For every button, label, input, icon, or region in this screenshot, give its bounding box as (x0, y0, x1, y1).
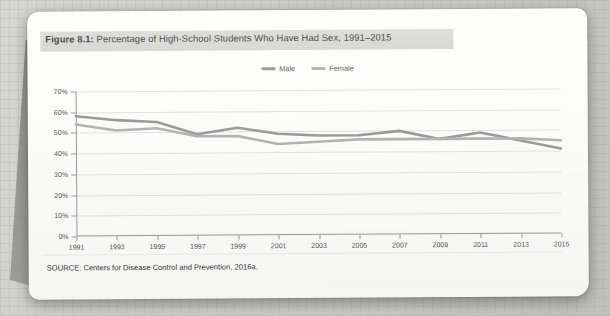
x-axis-tick (359, 235, 360, 239)
line-chart-plot-area: 0%10%20%30%40%50%60%70%19911993199519971… (76, 88, 562, 236)
x-axis-tick (400, 234, 401, 238)
legend-label-female: Female (329, 64, 354, 73)
x-axis-tick (481, 234, 482, 238)
x-axis-tick (238, 235, 239, 239)
x-axis-label: 1997 (190, 243, 206, 250)
chart-legend: Male Female (27, 62, 587, 74)
x-axis-tick (561, 233, 562, 237)
legend-label-male: Male (279, 64, 295, 73)
x-axis-tick (279, 235, 280, 239)
series-lines (76, 88, 562, 236)
y-axis-tick (71, 133, 76, 134)
y-axis-tick (71, 195, 76, 196)
x-axis-label: 2009 (432, 241, 448, 248)
x-axis-label: 1999 (230, 242, 246, 249)
x-axis-label: 2011 (473, 241, 488, 248)
x-axis-tick (117, 236, 118, 240)
x-axis-tick (76, 236, 77, 240)
x-axis-label: 2007 (392, 241, 408, 248)
y-axis-label: 70% (54, 88, 68, 95)
y-axis-label: 50% (54, 129, 68, 136)
legend-item-female: Female (311, 64, 354, 73)
legend-swatch-female (311, 67, 325, 70)
y-axis-tick (71, 216, 76, 217)
y-axis-tick (71, 154, 76, 155)
y-axis-label: 10% (54, 212, 68, 219)
figure-number: Figure 8.1: (45, 33, 94, 44)
y-axis-label: 0% (58, 233, 68, 240)
x-axis-tick (198, 236, 199, 240)
x-axis-label: 1993 (109, 243, 125, 250)
legend-swatch-male (261, 67, 275, 70)
figure-caption-title: Percentage of High-School Students Who H… (94, 31, 392, 44)
x-axis-label: 2015 (554, 240, 570, 247)
legend-item-male: Male (261, 64, 295, 73)
y-axis-tick (71, 174, 76, 175)
x-axis-tick (440, 234, 441, 238)
y-axis-tick (71, 112, 76, 113)
x-axis-tick (157, 236, 158, 240)
x-axis-label: 1991 (69, 243, 85, 250)
x-axis-label: 2005 (352, 242, 368, 249)
y-axis-label: 60% (54, 109, 68, 116)
x-axis-label: 2013 (513, 241, 529, 248)
x-axis-label: 2001 (271, 242, 287, 249)
y-axis-tick (71, 91, 76, 92)
source-note: SOURCE: Centers for Disease Control and … (47, 262, 258, 272)
textbook-page: Figure 8.1: Percentage of High-School St… (27, 8, 589, 299)
y-axis-label: 30% (54, 171, 68, 178)
x-axis-label: 1995 (150, 243, 166, 250)
footer-divider (42, 251, 562, 255)
y-axis-label: 20% (54, 192, 68, 199)
series-line-male (76, 113, 561, 151)
x-axis-tick (319, 235, 320, 239)
x-axis-label: 2003 (311, 242, 327, 249)
y-axis-label: 40% (54, 150, 68, 157)
x-axis-tick (521, 234, 522, 238)
